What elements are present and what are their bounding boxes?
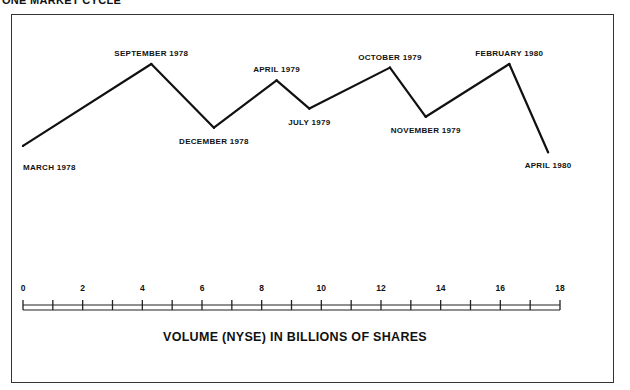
point-label: DECEMBER 1978	[179, 137, 249, 146]
line-segment	[214, 80, 277, 127]
line-segment	[509, 64, 548, 152]
data-point	[150, 63, 152, 65]
line-segment	[277, 80, 310, 108]
point-label: MARCH 1978	[23, 163, 76, 172]
data-point	[213, 127, 215, 129]
tick-label: 16	[496, 283, 506, 293]
line-segment	[390, 68, 426, 117]
line-segment	[151, 64, 214, 128]
point-label: JULY 1979	[288, 118, 331, 127]
data-point	[389, 67, 391, 69]
chart-svg: MARCH 1978SEPTEMBER 1978DECEMBER 1978APR…	[0, 0, 630, 390]
tick-label: 14	[436, 283, 446, 293]
data-point	[508, 63, 510, 65]
data-point	[308, 107, 310, 109]
line-segment	[426, 64, 510, 117]
tick-label: 4	[140, 283, 145, 293]
tick-label: 12	[376, 283, 386, 293]
point-label: FEBRUARY 1980	[475, 49, 543, 58]
tick-label: 10	[317, 283, 327, 293]
tick-label: 2	[80, 283, 85, 293]
point-label: OCTOBER 1979	[358, 53, 422, 62]
line-segment	[309, 68, 390, 109]
point-label: NOVEMBER 1979	[391, 126, 461, 135]
tick-label: 0	[21, 283, 26, 293]
line-layer	[22, 63, 549, 153]
point-label: APRIL 1979	[253, 65, 300, 74]
data-point	[425, 116, 427, 118]
point-label: APRIL 1980	[525, 161, 572, 170]
tick-label: 8	[259, 283, 264, 293]
x-axis: 024681012141618	[21, 283, 565, 310]
data-point	[547, 151, 549, 153]
point-label-layer: MARCH 1978SEPTEMBER 1978DECEMBER 1978APR…	[23, 49, 572, 172]
line-segment	[23, 64, 151, 146]
data-point	[22, 145, 24, 147]
tick-label: 18	[555, 283, 565, 293]
data-point	[275, 79, 277, 81]
point-label: SEPTEMBER 1978	[114, 49, 188, 58]
x-axis-title: VOLUME (NYSE) IN BILLIONS OF SHARES	[163, 330, 427, 344]
tick-label: 6	[200, 283, 205, 293]
